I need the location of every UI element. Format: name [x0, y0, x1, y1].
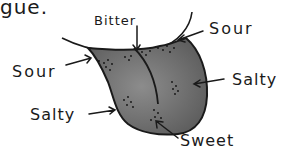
dot: [111, 63, 113, 65]
dot: [141, 51, 143, 53]
bitter-arrow: [133, 26, 140, 50]
dot: [98, 60, 100, 62]
dot: [107, 59, 109, 61]
dot: [157, 47, 159, 49]
dot: [126, 104, 128, 106]
label-salty-right: Salty: [232, 72, 277, 88]
salty-left-arrow: [89, 107, 115, 114]
sour-left-arrow: [66, 55, 91, 65]
dot: [128, 59, 130, 61]
dot: [157, 112, 159, 114]
dot: [153, 109, 155, 111]
dot: [162, 49, 164, 51]
heading-fragment: gue.: [0, 0, 48, 17]
dot: [127, 96, 129, 98]
dot: [150, 119, 152, 121]
dot: [109, 69, 111, 71]
dot: [173, 47, 175, 49]
dot: [105, 66, 107, 68]
salty-right-arrow: [194, 79, 224, 87]
label-sour-left: Sour: [12, 64, 57, 80]
dot: [172, 88, 174, 90]
dot: [130, 101, 132, 103]
dot: [149, 50, 151, 52]
dot: [124, 56, 126, 58]
label-bitter: Bitter: [94, 14, 136, 27]
dot: [171, 81, 173, 83]
label-sour-right: Sour: [209, 21, 254, 37]
dot: [169, 51, 171, 53]
dot: [166, 45, 168, 47]
tongue-shape: [88, 38, 207, 135]
dot: [174, 93, 176, 95]
dot: [177, 90, 179, 92]
label-sweet: Sweet: [180, 133, 234, 149]
tongue-taste-map-diagram: gue. Bitter Sour Sour Salty Salty Sweet: [0, 0, 281, 153]
dot: [130, 55, 132, 57]
label-salty-left: Salty: [30, 107, 75, 123]
dot: [145, 54, 147, 56]
dot: [123, 99, 125, 101]
sour-right-arrow: [178, 31, 203, 42]
dot: [154, 116, 156, 118]
dot: [175, 85, 177, 87]
dot: [160, 117, 162, 119]
dot: [132, 106, 134, 108]
dot: [103, 62, 105, 64]
